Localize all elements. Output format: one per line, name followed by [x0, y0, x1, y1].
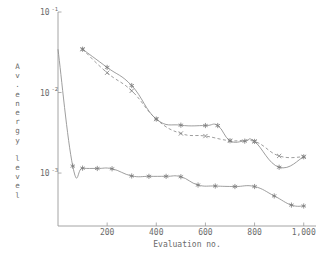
y-axis-title-char: e [11, 90, 24, 99]
y-axis-title-space [11, 145, 24, 154]
chart-series [58, 49, 306, 208]
chart-plot-area: 2004006008001,000 10-110-210-3 Evaluatio… [0, 0, 327, 259]
y-axis-title-char: A [11, 62, 24, 71]
y-axis-title-char: n [11, 99, 24, 108]
y-axis-title-char: l [11, 191, 24, 200]
chart-figure: 2004006008001,000 10-110-210-3 Evaluatio… [0, 0, 327, 259]
y-axis-title-char: l [11, 154, 24, 163]
y-axis-title-char: . [11, 80, 24, 89]
x-tick-label: 800 [247, 228, 262, 237]
x-axis-ticks: 2004006008001,000 [100, 223, 316, 238]
y-axis-title-char: v [11, 71, 24, 80]
y-axis-title: Av.energy level [11, 62, 24, 200]
y-axis-title-char: y [11, 136, 24, 145]
y-axis-title-char: e [11, 181, 24, 190]
x-tick-label: 1,000 [292, 228, 316, 237]
y-tick-exponent: -3 [52, 167, 59, 173]
y-axis-title-char: g [11, 126, 24, 135]
y-tick-label: 10 [40, 169, 50, 178]
y-axis-title-char: e [11, 163, 24, 172]
x-axis-title: Evaluation no. [153, 240, 220, 249]
chart-series [80, 47, 306, 170]
chart-series [80, 47, 305, 159]
y-axis-title-char: e [11, 108, 24, 117]
y-tick-label: 10 [40, 89, 50, 98]
series-line [83, 49, 304, 168]
y-axis-title-char: v [11, 172, 24, 181]
chart-axes [58, 12, 316, 226]
y-tick-exponent: -2 [52, 86, 59, 92]
x-tick-label: 200 [100, 228, 115, 237]
y-axis-title-char: r [11, 117, 24, 126]
y-tick-exponent: -1 [52, 6, 59, 12]
x-tick-label: 600 [198, 228, 213, 237]
series-line [83, 49, 304, 157]
y-tick-label: 10 [40, 8, 50, 17]
chart-series-layer [58, 47, 306, 209]
x-tick-label: 400 [149, 228, 164, 237]
